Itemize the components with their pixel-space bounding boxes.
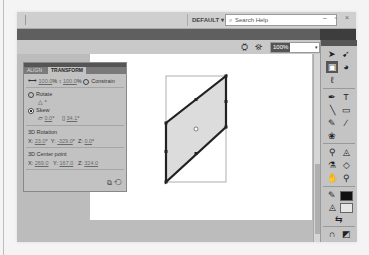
skew-label: Skew (36, 107, 49, 113)
3d-center-x-input[interactable]: 269.0 (35, 160, 49, 166)
3d-rotation-x-input[interactable]: 23.0 (35, 138, 46, 144)
registration-point[interactable] (194, 127, 198, 131)
skew-values-row: ▱ 0.0° ▯ 34.1° (38, 115, 79, 121)
3d-center-z-input[interactable]: 324.0 (84, 160, 98, 166)
width-scale-icon: ⟷ (28, 78, 37, 84)
skew-horizontal-icon: ▱ (38, 115, 43, 121)
divider (26, 87, 124, 88)
width-scale-input[interactable]: 100.0 (39, 78, 53, 84)
skew-option[interactable]: Skew (28, 107, 49, 114)
skew-vertical-input[interactable]: 34.1 (67, 115, 78, 121)
3d-center-row: X: 269.0 Y: 167.0 Z: 324.0 (28, 160, 98, 166)
tab-transform[interactable]: TRANSFORM (48, 67, 86, 74)
duplicate-and-apply-icon[interactable]: ⧉ (107, 179, 112, 186)
rotate-radio[interactable] (28, 92, 34, 98)
rotate-option[interactable]: Rotate (28, 91, 52, 98)
divider (26, 169, 124, 170)
3d-center-title: 3D Center point (28, 151, 67, 157)
transform-panel: ALIGN TRANSFORM ⟷ 100.0% ↕ 100.0% Constr… (23, 62, 127, 192)
3d-rotation-z-input[interactable]: 0.0 (84, 138, 92, 144)
panel-tabs: ALIGN TRANSFORM (24, 67, 126, 74)
3d-rotation-title: 3D Rotation (28, 129, 57, 135)
3d-rotation-y-input[interactable]: -329.0 (57, 138, 73, 144)
constrain-label: Constrain (91, 78, 115, 84)
rotate-label: Rotate (36, 91, 52, 97)
3d-center-y-input[interactable]: 167.0 (60, 160, 74, 166)
scale-row: ⟷ 100.0% ↕ 100.0% Constrain (28, 78, 115, 85)
panel-buttons: ⧉ ⟲ (107, 179, 122, 187)
divider (26, 125, 124, 126)
height-scale-icon: ↕ (59, 78, 62, 84)
rotate-value-row: △ ° (38, 99, 47, 105)
skew-vertical-icon: ▯ (62, 115, 65, 121)
desktop-edge (3, 0, 4, 255)
tab-align[interactable]: ALIGN (24, 67, 45, 74)
3d-rotation-row: X: 23.0° Y: -329.0° Z: 0.0° (28, 138, 94, 144)
rotate-icon: △ (38, 99, 43, 105)
height-scale-input[interactable]: 100.0 (63, 78, 77, 84)
constrain-toggle[interactable] (83, 79, 89, 85)
divider (26, 147, 124, 148)
skew-radio[interactable] (28, 108, 34, 114)
reset-transform-icon[interactable]: ⟲ (114, 179, 122, 186)
